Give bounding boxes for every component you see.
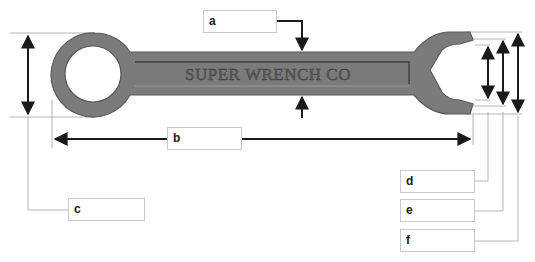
label-b-text: b (173, 131, 180, 145)
label-a-text: a (209, 14, 216, 28)
dim-arrow-a-top (276, 21, 302, 50)
wrench-diagram: SUPER WRENCH CO (0, 0, 535, 262)
label-box-d[interactable]: d (400, 170, 475, 193)
label-d-text: d (406, 174, 413, 188)
label-box-c[interactable]: c (68, 198, 145, 221)
label-box-b[interactable]: b (167, 127, 242, 150)
wrench-engraving: SUPER WRENCH CO (185, 65, 351, 84)
label-box-a[interactable]: a (203, 10, 277, 33)
wrench: SUPER WRENCH CO (51, 32, 473, 117)
label-e-text: e (406, 203, 413, 217)
label-f-text: f (406, 233, 410, 247)
label-c-text: c (74, 202, 81, 216)
ring-hole (65, 46, 121, 102)
label-box-f[interactable]: f (400, 229, 475, 252)
label-box-e[interactable]: e (400, 199, 475, 222)
